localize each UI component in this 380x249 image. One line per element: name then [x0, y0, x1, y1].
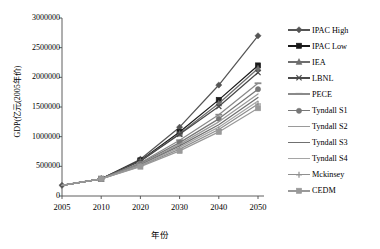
y-tick-label: 1000000	[4, 133, 60, 141]
x-tick-label: 2050	[238, 202, 278, 212]
legend-marker-icon	[288, 185, 310, 197]
legend-item[interactable]: IEA	[288, 54, 380, 70]
legend-swatch-icon	[288, 153, 310, 165]
x-tick-label: 2005	[42, 202, 82, 212]
legend-item[interactable]: PECE	[288, 86, 380, 102]
legend-item[interactable]: CEDM	[288, 183, 380, 199]
legend-label: IEA	[310, 58, 326, 67]
legend-label: Tyndall S4	[310, 154, 348, 163]
legend-swatch-icon	[288, 169, 310, 181]
y-tick-label: 2500000	[4, 44, 60, 52]
legend-line-icon	[288, 158, 310, 160]
legend-label: PECE	[310, 90, 332, 99]
legend-label: LBNL	[310, 74, 333, 83]
legend-item[interactable]: Tyndall S4	[288, 151, 380, 167]
legend-swatch-icon	[288, 72, 310, 84]
legend-item[interactable]: LBNL	[288, 70, 380, 86]
legend-item[interactable]: Mckinsey	[288, 167, 380, 183]
x-tick-label: 2040	[199, 202, 239, 212]
legend-marker-icon	[288, 169, 310, 181]
legend-label: Tyndall S3	[310, 138, 348, 147]
legend-line-icon	[288, 126, 310, 128]
legend-swatch-icon	[288, 24, 310, 36]
x-tick-label: 2020	[120, 202, 160, 212]
x-tick-label: 2030	[160, 202, 200, 212]
y-tick-label: 3000000	[4, 14, 60, 22]
legend-marker-icon	[288, 40, 310, 52]
y-tick-label: 0	[4, 192, 60, 200]
legend-marker-icon	[288, 105, 310, 117]
legend-swatch-icon	[288, 105, 310, 117]
legend-label: Tyndall S1	[310, 106, 348, 115]
chart-figure: GDP(亿元(2005年价) 0500000100000015000002000…	[0, 0, 380, 249]
legend-swatch-icon	[288, 88, 310, 100]
x-tick-label: 2010	[81, 202, 121, 212]
legend-line-icon	[288, 142, 310, 144]
y-tick-label: 1500000	[4, 103, 60, 111]
legend-swatch-icon	[288, 56, 310, 68]
series-line	[62, 65, 261, 185]
legend-swatch-icon	[288, 40, 310, 52]
legend-swatch-icon	[288, 137, 310, 149]
legend-marker-icon	[288, 24, 310, 36]
legend-swatch-icon	[288, 121, 310, 133]
chart-legend: IPAC HighIPAC LowIEALBNLPECETyndall S1Ty…	[288, 22, 380, 199]
legend-marker-icon	[288, 72, 310, 84]
legend-swatch-icon	[288, 185, 310, 197]
y-tick-label: 2000000	[4, 73, 60, 81]
legend-label: Tyndall S2	[310, 122, 348, 131]
legend-label: IPAC High	[310, 26, 348, 35]
legend-label: CEDM	[310, 186, 336, 195]
tick-marks	[59, 18, 258, 199]
legend-item[interactable]: Tyndall S3	[288, 135, 380, 151]
legend-marker-icon	[288, 88, 310, 100]
legend-item[interactable]: Tyndall S1	[288, 102, 380, 118]
legend-item[interactable]: IPAC Low	[288, 38, 380, 54]
series-line	[62, 87, 261, 186]
legend-label: IPAC Low	[310, 42, 347, 51]
legend-marker-icon	[288, 56, 310, 68]
series-line	[62, 82, 261, 185]
y-tick-label: 500000	[4, 162, 60, 170]
x-axis-title: 年份	[62, 228, 258, 240]
legend-item[interactable]: Tyndall S2	[288, 119, 380, 135]
legend-item[interactable]: IPAC High	[288, 22, 380, 38]
legend-label: Mckinsey	[310, 170, 344, 179]
series-line	[62, 70, 261, 185]
